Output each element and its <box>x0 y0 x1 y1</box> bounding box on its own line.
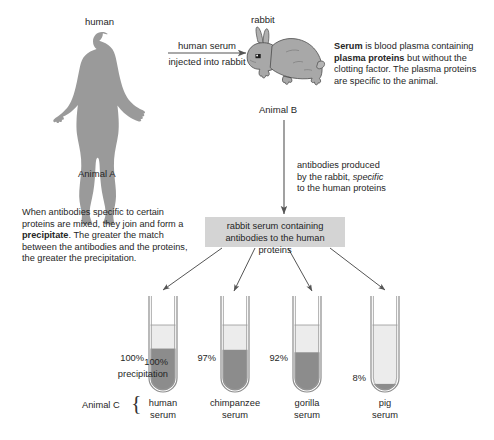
immunology-precipitation-diagram: 100%humanserum97%chimpanzeeserum92%goril… <box>0 0 494 440</box>
rabbit-serum-box-line1: rabbit serum containing <box>213 220 337 232</box>
precipitation-caption-line1: 100% <box>110 357 168 369</box>
animal-b-label: Animal B <box>259 104 297 116</box>
rabbit-label: rabbit <box>251 14 275 26</box>
tube-percent-label: 97% <box>172 353 216 365</box>
test-tube-icon <box>292 295 322 399</box>
tube-sample-label: gorillaserum <box>269 398 345 421</box>
antibodies-note-line2: by the rabbit, specific <box>297 172 447 184</box>
tube-sample-label-line1: chimpanzee <box>197 398 273 410</box>
tube-sample-label-line2: serum <box>197 410 273 422</box>
antibodies-production-note: antibodies produced by the rabbit, speci… <box>297 160 447 195</box>
tube-sample-label-line2: serum <box>269 410 345 422</box>
serum-definition-note: Serum is blood plasma containing plasma … <box>334 41 486 87</box>
injection-arrow-label-line1: human serum <box>160 40 254 52</box>
tube-sample-label-line1: pig <box>347 398 423 410</box>
precipitate-explanation-note: When antibodies specific to certain prot… <box>22 207 190 265</box>
rabbit-serum-box: rabbit serum containing antibodies to th… <box>205 217 345 247</box>
animal-c-label: Animal C <box>82 400 120 410</box>
test-tube-icon <box>370 295 400 399</box>
serum-note-seg2: is blood plasma containing <box>363 41 474 51</box>
antibodies-note-line3: to the human proteins <box>297 183 447 195</box>
curly-brace-icon: { <box>131 392 142 414</box>
animal-a-label: Animal A <box>78 168 116 180</box>
tube-sample-label: chimpanzeeserum <box>197 398 273 421</box>
antibodies-note-line1: antibodies produced <box>297 160 447 172</box>
human-label: human <box>85 16 114 28</box>
precipitate-note-seg1: When antibodies specific to certain prot… <box>22 207 183 229</box>
precipitation-caption-line2: precipitation <box>110 369 168 381</box>
tube-percent-label: 8% <box>322 373 366 385</box>
precipitation-caption: 100% precipitation <box>110 357 168 380</box>
precipitate-term: precipitate <box>22 230 68 240</box>
serum-term: Serum <box>334 41 363 51</box>
specific-emphasis: specific <box>353 172 384 182</box>
test-tube-icon <box>220 295 250 399</box>
tube-sample-label-line2: serum <box>347 410 423 422</box>
tube-percent-label: 92% <box>244 353 288 365</box>
tube-sample-label: pigserum <box>347 398 423 421</box>
plasma-proteins-term: plasma proteins <box>334 53 404 63</box>
rabbit-serum-box-line2: antibodies to the human proteins <box>213 232 337 256</box>
human-silhouette-icon <box>53 32 145 224</box>
test-tube-icon <box>148 295 178 399</box>
injection-arrow-label-line2: injected into rabbit <box>152 56 262 68</box>
tube-sample-label-line1: gorilla <box>269 398 345 410</box>
antibodies-note-line2a: by the rabbit, <box>297 172 353 182</box>
